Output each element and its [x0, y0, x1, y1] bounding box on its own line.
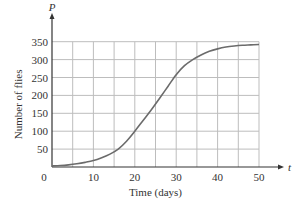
- origin-label: 0: [41, 171, 47, 183]
- x-tick-label: 10: [88, 171, 100, 183]
- x-axis-arrow-icon: [278, 165, 284, 170]
- y-tick-label: 50: [37, 143, 49, 155]
- y-axis-title: Number of flies: [12, 70, 24, 140]
- y-tick-label: 150: [32, 107, 49, 119]
- x-tick-label: 20: [129, 171, 141, 183]
- y-tick-label: 350: [32, 36, 49, 48]
- x-tick-label: 50: [254, 171, 266, 183]
- y-tick-label: 250: [32, 72, 49, 84]
- y-axis-arrow-icon: [50, 13, 55, 19]
- y-tick-label: 200: [32, 89, 49, 101]
- y-tick-label: 100: [32, 125, 49, 137]
- logistic-growth-chart: Pt5010015020025030035010203040500Time (d…: [0, 0, 300, 203]
- x-axis-title: Time (days): [129, 186, 182, 199]
- y-axis-variable: P: [48, 1, 56, 13]
- y-tick-label: 300: [32, 54, 49, 66]
- x-tick-label: 30: [171, 171, 183, 183]
- x-axis-variable: t: [288, 161, 292, 173]
- x-tick-label: 40: [212, 171, 224, 183]
